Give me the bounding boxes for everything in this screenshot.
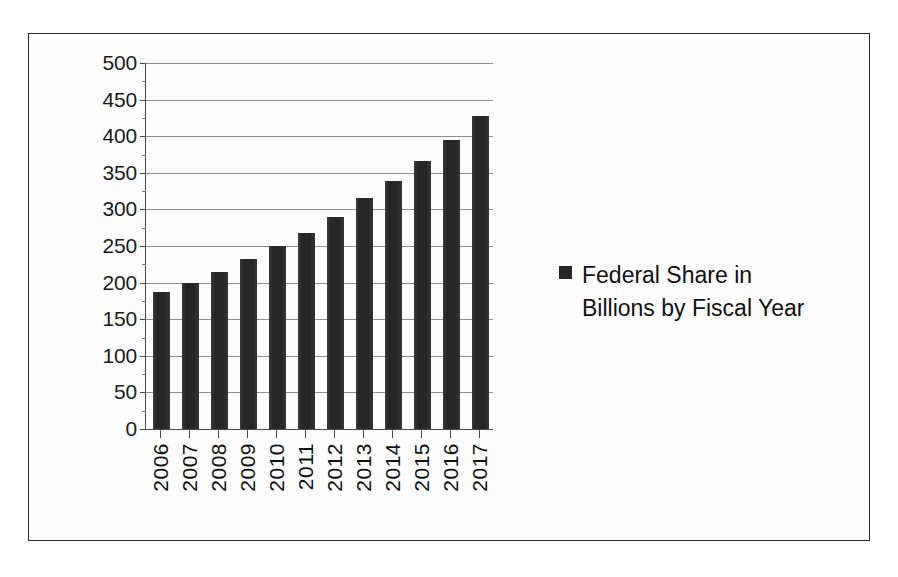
bar	[414, 161, 431, 429]
x-axis-label-2006: 2006	[149, 443, 173, 492]
y-tick-450	[140, 100, 146, 101]
y-tick-50	[140, 392, 146, 393]
y-tick-100	[140, 356, 146, 357]
x-tick-2011	[305, 429, 306, 438]
y-axis-label: 250	[103, 234, 137, 258]
y-tick-minor	[142, 118, 146, 119]
bars-group	[147, 63, 493, 429]
y-axis-label: 200	[103, 271, 137, 295]
square-marker-icon	[559, 266, 572, 279]
x-axis-label-2007: 2007	[178, 443, 202, 492]
x-axis-label-2011: 2011	[294, 443, 318, 490]
x-axis-group: 2006200720082009201020112012201320142015…	[145, 429, 493, 539]
y-axis-label: 450	[103, 88, 137, 112]
bar	[153, 292, 170, 429]
y-tick-150	[140, 319, 146, 320]
y-tick-minor	[142, 411, 146, 412]
y-tick-500	[140, 63, 146, 64]
x-tick-2006	[160, 429, 161, 438]
x-tick-2014	[392, 429, 393, 438]
x-tick-2009	[247, 429, 248, 438]
y-tick-200	[140, 283, 146, 284]
y-tick-350	[140, 173, 146, 174]
bar	[327, 217, 344, 429]
y-axis-label: 50	[114, 380, 137, 404]
y-tick-minor	[142, 374, 146, 375]
bar	[356, 198, 373, 429]
x-axis-label-2008: 2008	[207, 443, 231, 492]
x-axis-label-2009: 2009	[236, 443, 260, 492]
x-tick-2012	[334, 429, 335, 438]
y-axis-label: 0	[126, 417, 137, 441]
x-axis-label-2015: 2015	[410, 443, 434, 492]
y-tick-250	[140, 246, 146, 247]
y-tick-minor	[142, 301, 146, 302]
bar	[472, 116, 489, 429]
y-axis-label: 350	[103, 161, 137, 185]
x-tick-2016	[450, 429, 451, 438]
y-tick-minor	[142, 191, 146, 192]
bar	[211, 272, 228, 429]
legend: Federal Share in Billions by Fiscal Year	[559, 259, 812, 326]
x-tick-2007	[189, 429, 190, 438]
bar	[385, 181, 402, 429]
y-tick-minor	[142, 338, 146, 339]
y-tick-minor	[142, 81, 146, 82]
y-tick-minor	[142, 155, 146, 156]
x-tick-2015	[421, 429, 422, 438]
x-tick-2017	[479, 429, 480, 438]
x-tick-2013	[363, 429, 364, 438]
bar	[443, 140, 460, 429]
bar	[269, 246, 286, 429]
y-axis-label: 400	[103, 124, 137, 148]
x-axis-label-2013: 2013	[352, 443, 376, 492]
x-axis-label-2014: 2014	[381, 443, 405, 492]
x-tick-2010	[276, 429, 277, 438]
chart-frame: 050100150200250300350400450500 200620072…	[28, 33, 870, 541]
x-axis-label-2016: 2016	[439, 443, 463, 492]
y-tick-300	[140, 209, 146, 210]
y-tick-minor	[142, 264, 146, 265]
y-axis-label: 300	[103, 197, 137, 221]
y-axis-label: 500	[103, 51, 137, 75]
x-axis-label-2017: 2017	[468, 443, 492, 492]
x-axis-label-2010: 2010	[265, 443, 289, 492]
x-tick-2008	[218, 429, 219, 438]
x-axis-label-2012: 2012	[323, 443, 347, 492]
legend-label: Federal Share in Billions by Fiscal Year	[582, 259, 812, 326]
y-tick-minor	[142, 228, 146, 229]
y-axis-label: 150	[103, 307, 137, 331]
y-axis-label: 100	[103, 344, 137, 368]
y-tick-400	[140, 136, 146, 137]
bar	[182, 283, 199, 429]
plot-area: 050100150200250300350400450500	[145, 63, 493, 429]
bar	[298, 233, 315, 429]
bar	[240, 259, 257, 429]
